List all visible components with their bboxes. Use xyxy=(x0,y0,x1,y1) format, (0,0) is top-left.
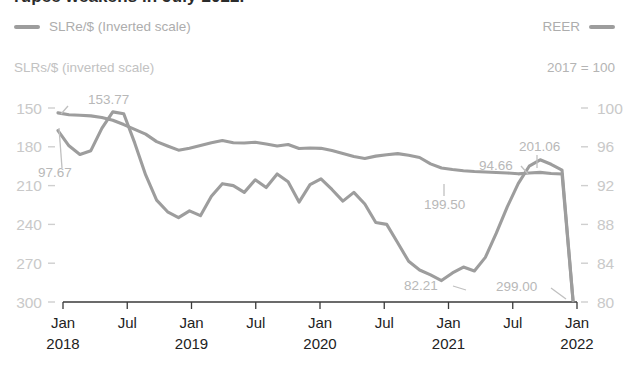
x-axis-tick-label-month: Jan xyxy=(565,314,589,331)
x-axis-tick-label-month: Jul xyxy=(118,314,137,331)
chart-svg: 1501802102402703001009692888480Jan2018Ju… xyxy=(0,0,629,378)
x-axis-tick-label-year: 2018 xyxy=(46,335,79,352)
x-axis-tick-label-month: Jan xyxy=(179,314,203,331)
y-axis-tick-label-left: 180 xyxy=(16,138,42,155)
data-point-label: 299.00 xyxy=(496,279,537,294)
data-point-label: 97.67 xyxy=(38,165,72,180)
chart-root: rupee weakens in July 2022. SLRe/$ (Inve… xyxy=(0,0,629,378)
plot-area: 1501802102402703001009692888480Jan2018Ju… xyxy=(0,0,629,378)
data-point-label: 199.50 xyxy=(424,197,465,212)
data-point-label: 94.66 xyxy=(479,158,513,173)
data-point-label: 82.21 xyxy=(404,278,438,293)
annotation-leader-line xyxy=(453,286,466,290)
x-axis-tick-label-year: 2022 xyxy=(560,335,593,352)
x-axis-tick-label-year: 2021 xyxy=(432,335,465,352)
y-axis-tick-label-left: 270 xyxy=(16,255,42,272)
y-axis-tick-label-left: 150 xyxy=(16,100,42,117)
y-axis-tick-label-left: 300 xyxy=(16,294,42,311)
y-axis-tick-label-right: 80 xyxy=(597,294,615,311)
y-axis-tick-label-right: 100 xyxy=(597,100,623,117)
series-line-reer xyxy=(58,112,573,300)
x-axis-tick-label-month: Jul xyxy=(503,314,522,331)
y-axis-tick-label-right: 92 xyxy=(597,177,614,194)
x-axis-tick-label-month: Jan xyxy=(51,314,75,331)
x-axis-tick-label-year: 2019 xyxy=(175,335,208,352)
y-axis-tick-label-right: 84 xyxy=(597,255,615,272)
x-axis-tick-label-year: 2020 xyxy=(303,335,336,352)
x-axis-tick-label-month: Jul xyxy=(375,314,394,331)
y-axis-tick-label-right: 96 xyxy=(597,138,614,155)
data-point-label: 153.77 xyxy=(88,92,129,107)
annotation-leader-line xyxy=(551,288,566,299)
y-axis-tick-label-left: 240 xyxy=(16,216,42,233)
x-axis-tick-label-month: Jan xyxy=(436,314,460,331)
data-point-label: 201.06 xyxy=(519,139,560,154)
y-axis-tick-label-right: 88 xyxy=(597,216,614,233)
x-axis-tick-label-month: Jul xyxy=(246,314,265,331)
x-axis-tick-label-month: Jan xyxy=(308,314,332,331)
